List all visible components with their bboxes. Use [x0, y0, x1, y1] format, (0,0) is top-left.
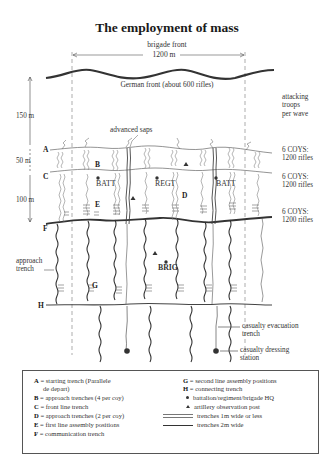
- artillery-post-icon: [153, 251, 158, 255]
- legend-C: C = front line trench: [34, 403, 88, 411]
- distance-150m: 150 m: [16, 112, 34, 120]
- wave-1-label: 6 COYS: 1200 rifles: [282, 146, 313, 163]
- trench-C: [50, 168, 272, 173]
- trench-A: [50, 146, 272, 153]
- hq-brig-label: BRIG: [158, 264, 178, 272]
- legend-F: F = communication trench: [34, 430, 104, 438]
- letter-D: D: [182, 191, 187, 200]
- letter-G: G: [92, 281, 98, 290]
- legend-A: A = starting trench (Parallele: [34, 377, 111, 385]
- wave-3-label: 6 COYS: 1200 rifles: [282, 208, 313, 225]
- triangle-icon: [186, 405, 190, 408]
- brigade-front-width: 1200 m: [140, 51, 188, 59]
- advanced-saps: [62, 135, 251, 150]
- casualty-evacuation-trenches: [126, 306, 240, 351]
- dressing-station-left: [124, 348, 130, 354]
- german-front-label: German front (about 600 rifles): [87, 81, 247, 89]
- dressing-station-right: [213, 348, 219, 354]
- german-front-line: [46, 70, 274, 79]
- artillery-post-icon: [184, 162, 189, 166]
- legend-B: B = approach trenches (4 per coy): [34, 394, 124, 402]
- legend-H: H = connecting trench: [183, 385, 242, 393]
- legend-artillery: artillery observation post: [183, 403, 260, 411]
- thick-line-icon: [163, 425, 193, 427]
- letter-E: E: [95, 200, 100, 209]
- assembly-positions-E: [64, 203, 259, 215]
- legend-D: D = approach trenches (2 per coy): [34, 412, 124, 420]
- legend-thick-trench: trenches 2m wide: [163, 421, 244, 429]
- legend-A-cont: de depart): [43, 385, 70, 393]
- approach-trenches-B: [57, 148, 260, 170]
- trench-F: [46, 217, 272, 224]
- advanced-saps-label: advanced saps: [110, 126, 152, 134]
- assembly-positions-G: [58, 285, 237, 293]
- letter-B: B: [95, 160, 100, 169]
- brigade-front-label: brigade front: [117, 41, 217, 49]
- attacking-troops-label: attacking troops per wave: [282, 93, 308, 118]
- trench-H: [46, 303, 272, 305]
- legend-thin-trench: trenches 1m wide or less: [163, 412, 262, 420]
- letter-F: F: [43, 224, 48, 233]
- hq-regt-label: REGT: [155, 180, 175, 188]
- legend-box: A = starting trench (Parallele de depart…: [22, 370, 319, 454]
- communication-verticals: [56, 219, 231, 304]
- letter-A: A: [43, 145, 48, 154]
- approach-trench-label: approach trench: [16, 257, 42, 274]
- legend-G: G = second line assembly positions: [183, 377, 277, 385]
- casualty-evacuation-label: casualty evacuation trench: [242, 322, 298, 339]
- casualty-station-label: casualty dressing station: [240, 346, 289, 363]
- legend-E: E = first line assembly positions: [34, 421, 119, 429]
- rear-trenches: [99, 306, 231, 362]
- thin-double-line-icon: [163, 414, 193, 418]
- distance-100m: 100 m: [16, 196, 34, 204]
- hq-batt-left-label: BATT: [96, 180, 116, 188]
- dot-icon: [186, 396, 189, 399]
- legend-hq: battalion/regiment/brigade HQ: [183, 394, 274, 402]
- letter-H: H: [38, 301, 44, 310]
- wave-2-label: 6 COYS: 1200 rifles: [282, 173, 313, 190]
- letter-C: C: [43, 172, 48, 181]
- artillery-post-icon: [131, 196, 136, 200]
- hq-batt-right-label: BATT: [216, 180, 236, 188]
- distance-50m: 50 m: [16, 157, 31, 165]
